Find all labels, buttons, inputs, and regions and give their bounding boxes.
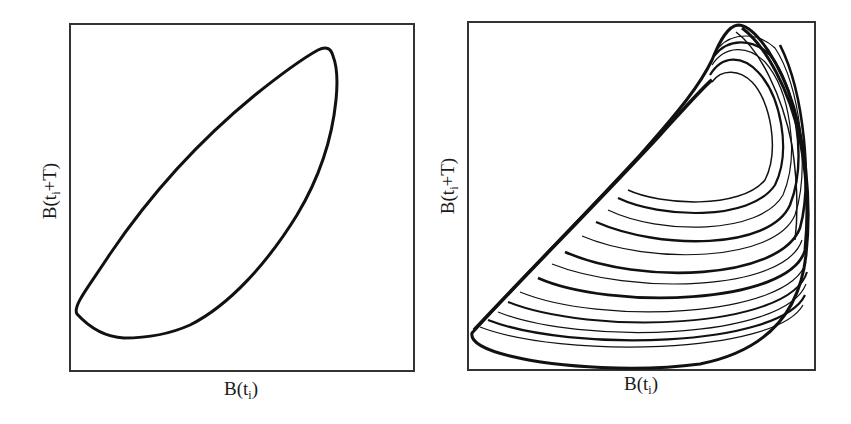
x-label-tail: ) (652, 373, 658, 394)
y-label-main: B(t (437, 190, 458, 214)
attractor-band (582, 36, 802, 255)
attractor-outer-band (472, 25, 808, 368)
x-axis-label: B(ti) (581, 373, 701, 395)
x-label-main: B(t (624, 373, 648, 394)
strange-attractor-plot (0, 0, 851, 424)
y-label-sub: i (447, 187, 461, 190)
y-axis-label: B(ti+T) (437, 126, 459, 246)
attractor-band (608, 50, 791, 228)
attractor-band (596, 42, 798, 241)
y-label-tail: +T) (437, 158, 458, 187)
attractor-bands (472, 25, 808, 368)
x-label-sub: i (648, 383, 651, 397)
strange-attractor-panel: B(ti+T) B(ti) (0, 0, 851, 424)
